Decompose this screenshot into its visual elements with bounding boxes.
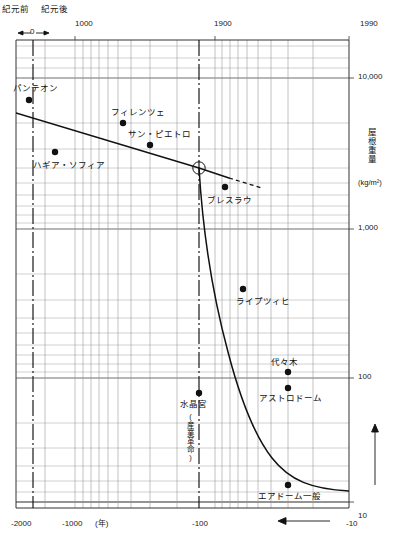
top-axis-tick-1990: 1990 <box>360 20 378 28</box>
bottom-left-arrow-indicator <box>278 518 330 525</box>
point-label-san-pietro: サン・ピエトロ <box>128 130 191 139</box>
horizontal-gridlines <box>16 46 349 502</box>
point-label-firenze: フィレンツェ <box>111 108 165 117</box>
point-label-air-dome: エアドーム一般 <box>258 492 321 501</box>
right-up-arrow-indicator <box>372 424 379 485</box>
dot-firenze <box>120 120 126 126</box>
dot-crystal-palace <box>196 390 202 396</box>
y-axis-title: 屋根重量 <box>366 128 375 164</box>
point-label-crystal-palace: 水晶宮 <box>180 400 207 409</box>
dot-leipzig <box>240 286 246 292</box>
point-label-breslau: ブレスラウ <box>207 196 252 205</box>
bottom-axis-tick-minus1000: -1000 <box>62 520 82 528</box>
point-label-pantheon: パンテオン <box>13 84 58 93</box>
bottom-axis-unit-year: (年) <box>95 520 108 528</box>
modern-lightweight-curve <box>199 168 349 491</box>
point-label-astrodome: アストロドーム <box>259 394 322 403</box>
axis-label-ad: 紀元後 <box>41 5 68 14</box>
top-axis-ticks <box>75 36 349 40</box>
axis-label-bc: 紀元前 <box>2 5 29 14</box>
top-axis-tick-1900: 1900 <box>214 20 232 28</box>
dot-breslau <box>222 184 228 190</box>
annotation-industrial-revolution: (産業革命) <box>186 412 194 462</box>
dot-pantheon <box>26 97 32 103</box>
dot-air-dome <box>285 482 291 488</box>
dot-hagia-sophia <box>52 149 58 155</box>
right-axis-tick-10000: 10,000 <box>358 73 382 81</box>
right-axis-tick-1000: 1,000 <box>358 224 378 232</box>
point-label-leipzig: ライプツィヒ <box>236 297 290 306</box>
bottom-axis-tick-minus10: -10 <box>346 520 358 528</box>
chart-svg <box>0 0 398 542</box>
bottom-axis-tick-minus100: -100 <box>192 520 208 528</box>
dot-san-pietro <box>147 142 153 148</box>
right-axis-ticks <box>349 78 354 502</box>
right-axis-tick-10: 10 <box>358 512 367 520</box>
y-axis-unit: (kg/m²) <box>358 178 382 187</box>
axis-tick-year-zero: 0 <box>30 28 34 36</box>
right-axis-tick-100: 100 <box>358 373 371 381</box>
bottom-axis-tick-minus2000: -2000 <box>11 520 31 528</box>
chart-canvas: 紀元前 紀元後 0 1000 1900 1990 10,000 1,000 10… <box>0 0 398 542</box>
dot-astrodome <box>285 385 291 391</box>
point-label-hagia-sophia: ハギア・ソフィア <box>33 161 105 170</box>
dot-yoyogi <box>285 369 291 375</box>
point-label-yoyogi: 代々木 <box>271 358 298 367</box>
top-axis-tick-1000: 1000 <box>75 20 93 28</box>
